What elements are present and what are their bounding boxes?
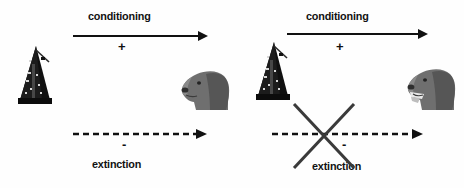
panel-extinction-blocked: conditioning + extinction - (232, 0, 464, 188)
dog-head-icon (182, 71, 230, 110)
extinction-arrow-dashed (73, 129, 207, 139)
extinction-arrow-dashed (272, 129, 423, 139)
dog-head-icon (408, 69, 456, 110)
panel-acquisition: conditioning + extinction - (0, 0, 232, 188)
x-cross-icon (294, 104, 354, 168)
metronome-icon (18, 46, 52, 104)
conditioning-arrow-solid (287, 29, 428, 39)
figure-canvas: conditioning + extinction - (0, 0, 464, 188)
conditioning-arrow-solid (73, 31, 208, 41)
metronome-icon (256, 42, 290, 100)
